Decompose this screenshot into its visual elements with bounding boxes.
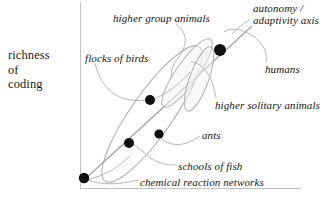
leader-chemical-reaction-networks bbox=[85, 178, 138, 184]
y-axis-title-line-3: coding bbox=[8, 77, 50, 92]
label-autonomy-adaptivity-axis-line-2: adaptivity axis bbox=[253, 14, 319, 27]
leader-ants bbox=[159, 136, 200, 145]
label-humans: humans bbox=[265, 63, 300, 76]
label-higher-solitary-animals: higher solitary animals bbox=[215, 99, 320, 112]
label-flocks-of-birds: flocks of birds bbox=[85, 52, 148, 65]
y-axis-title-line-1: richness bbox=[8, 48, 50, 63]
label-schools-of-fish: schools of fish bbox=[178, 160, 242, 173]
y-axis-title-line-2: of bbox=[8, 63, 50, 78]
point-flocks-of-birds[interactable] bbox=[145, 95, 155, 105]
point-humans[interactable] bbox=[214, 44, 226, 56]
label-higher-group-animals: higher group animals bbox=[113, 12, 210, 25]
point-chemical-reaction-networks[interactable] bbox=[79, 173, 89, 183]
point-schools-of-fish[interactable] bbox=[124, 138, 134, 148]
leader-flocks-of-birds bbox=[95, 63, 145, 100]
diagram-canvas: richness of coding higher group animals … bbox=[0, 0, 330, 207]
point-ants[interactable] bbox=[154, 129, 163, 138]
label-chemical-reaction-networks: chemical reaction networks bbox=[140, 176, 264, 189]
y-axis-title: richness of coding bbox=[8, 48, 50, 92]
label-autonomy-adaptivity-axis-line-1: autonomy / bbox=[253, 2, 303, 15]
label-ants: ants bbox=[202, 129, 221, 142]
